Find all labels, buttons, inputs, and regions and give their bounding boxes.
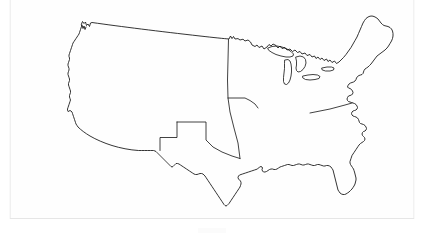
lake-ontario — [322, 67, 334, 71]
lake-erie — [303, 75, 320, 81]
united-states-outline-map — [0, 0, 423, 237]
lake-huron — [296, 56, 306, 72]
state-border-texas-east — [177, 122, 240, 159]
state-border-kansas-missouri — [228, 98, 258, 108]
state-border-virginia-north-carolina — [310, 103, 352, 113]
lake-superior — [268, 46, 294, 57]
state-border-texas — [160, 122, 177, 151]
scanned-map-page — [0, 0, 423, 237]
state-border-plains-vertical — [228, 40, 241, 159]
puget-sound-detail — [82, 25, 86, 30]
lake-michigan — [284, 60, 292, 85]
